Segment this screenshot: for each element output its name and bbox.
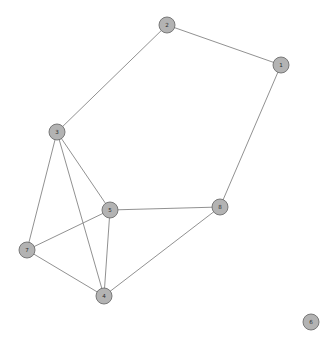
graph-node-7[interactable]: 7 bbox=[19, 242, 35, 258]
node-circle-5[interactable] bbox=[102, 202, 118, 218]
graph-node-8[interactable]: 8 bbox=[212, 199, 228, 215]
graph-node-6[interactable]: 6 bbox=[303, 314, 319, 330]
node-circle-6[interactable] bbox=[303, 314, 319, 330]
graph-node-1[interactable]: 1 bbox=[273, 57, 289, 73]
graph-node-2[interactable]: 2 bbox=[159, 17, 175, 33]
graph-node-3[interactable]: 3 bbox=[49, 124, 65, 140]
network-graph: 12345678 bbox=[0, 0, 328, 344]
graph-background bbox=[0, 0, 328, 344]
node-circle-2[interactable] bbox=[159, 17, 175, 33]
graph-node-4[interactable]: 4 bbox=[96, 288, 112, 304]
node-circle-7[interactable] bbox=[19, 242, 35, 258]
node-circle-8[interactable] bbox=[212, 199, 228, 215]
node-circle-3[interactable] bbox=[49, 124, 65, 140]
node-circle-1[interactable] bbox=[273, 57, 289, 73]
graph-node-5[interactable]: 5 bbox=[102, 202, 118, 218]
node-circle-4[interactable] bbox=[96, 288, 112, 304]
